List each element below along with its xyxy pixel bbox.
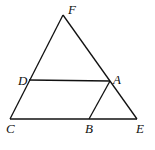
segment-FE	[63, 15, 137, 119]
label-A: A	[112, 72, 121, 87]
label-E: E	[135, 121, 144, 136]
label-B: B	[85, 121, 93, 136]
label-C: C	[6, 121, 15, 136]
point-labels: F D A C B E	[6, 2, 144, 136]
segment-DA	[29, 80, 110, 81]
segments	[10, 15, 137, 119]
label-D: D	[17, 73, 28, 88]
segment-AB	[89, 81, 110, 119]
label-F: F	[67, 2, 77, 17]
segment-FC	[10, 15, 63, 119]
geometry-diagram: F D A C B E	[0, 0, 155, 150]
